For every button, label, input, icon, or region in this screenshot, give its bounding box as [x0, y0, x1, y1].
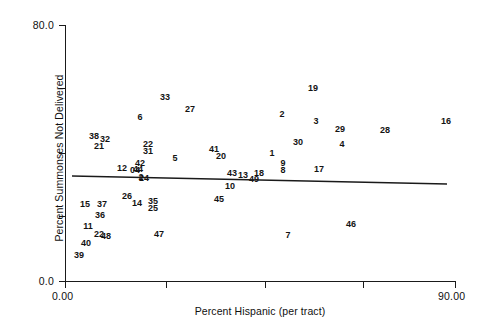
- y-axis-tick: [59, 25, 66, 26]
- data-point-label: 1: [269, 149, 274, 158]
- data-point-label: 20: [216, 152, 226, 161]
- x-axis-tick: [363, 281, 364, 288]
- data-point-label: 10: [225, 182, 235, 191]
- x-axis-title: Percent Hispanic (per tract): [65, 305, 455, 317]
- data-point-label: 29: [335, 125, 345, 134]
- data-point-label: 36: [95, 211, 105, 220]
- data-point-label: 16: [441, 117, 451, 126]
- y-axis-tick-label-0: 0.0: [39, 275, 54, 287]
- data-point-label: 28: [380, 126, 390, 135]
- x-axis-tick: [455, 281, 456, 288]
- trend-line: [0, 0, 494, 335]
- data-point-label: 27: [185, 105, 195, 114]
- data-point-label: 45: [214, 195, 224, 204]
- data-point-label: 2: [279, 110, 284, 119]
- data-point-label: 19: [308, 84, 318, 93]
- data-point-label: 33: [160, 93, 170, 102]
- data-point-label: 6: [137, 113, 142, 122]
- data-point-label: 4: [339, 140, 344, 149]
- data-point-label: 14: [132, 199, 142, 208]
- y-axis-title: Percent Summonses Not Delivered: [53, 33, 65, 283]
- data-point-label: 46: [346, 220, 356, 229]
- x-axis-tick-label-0: 0.00: [52, 290, 73, 302]
- data-point-label: 48: [101, 232, 111, 241]
- x-axis-tick: [166, 281, 167, 288]
- data-point-label: 38: [89, 132, 99, 141]
- data-point-label: 21: [94, 142, 104, 151]
- data-point-label: 13: [238, 171, 248, 180]
- data-point-label: 40: [81, 239, 91, 248]
- x-axis-tick: [65, 281, 66, 288]
- data-point-label: 31: [143, 147, 153, 156]
- data-point-label: 15: [80, 200, 90, 209]
- data-point-label: 25: [148, 204, 158, 213]
- x-axis-tick-label-90: 90.00: [438, 290, 465, 302]
- data-point-label: 12: [117, 164, 127, 173]
- data-point-label: 3: [313, 117, 318, 126]
- data-point-label: 30: [293, 138, 303, 147]
- data-point-label: 5: [172, 154, 177, 163]
- data-point-label: 8: [280, 166, 285, 175]
- data-point-label: 7: [285, 231, 290, 240]
- x-axis-tick: [265, 281, 266, 288]
- data-point-label: 37: [97, 200, 107, 209]
- data-point-label: 39: [74, 251, 84, 260]
- data-point-label: 47: [154, 230, 164, 239]
- y-axis-tick-label-80: 80.0: [33, 19, 54, 31]
- data-point-label: 24: [139, 174, 149, 183]
- x-axis-line: [65, 281, 455, 282]
- data-point-label: 17: [314, 165, 324, 174]
- data-point-label: 11: [83, 222, 93, 231]
- scatter-plot-figure: 80.0 0.0 0.00 90.00 Percent Summonses No…: [0, 0, 494, 335]
- data-point-label: 43: [227, 169, 237, 178]
- data-point-label: 26: [122, 192, 132, 201]
- data-point-label: 49: [249, 175, 259, 184]
